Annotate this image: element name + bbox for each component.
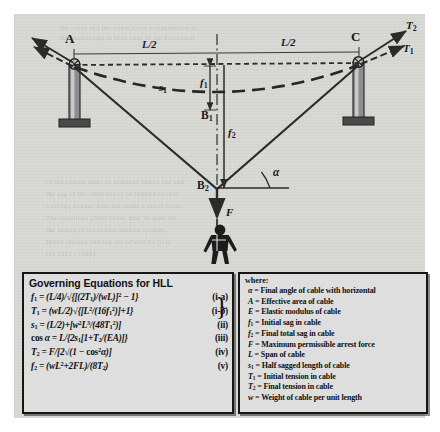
equation-number: (ii) [215, 321, 228, 330]
equation-row: T1 = (wL/2)√{[L2/(16f12)]+1} (i-b) [31, 306, 228, 317]
equation-row: T2 = F/[2√(1 − cos2α)] (iv) [31, 347, 228, 358]
label-support-A: A [65, 31, 74, 47]
angle-arc-alpha [262, 172, 271, 188]
equation-row: f1 = (L/4)/√{[(2T1)/(wL)]2 − 1} (i-a) [31, 292, 228, 303]
nomenclature-title: where: [240, 274, 426, 286]
equation-number: (iii) [213, 334, 228, 343]
equation-body-ii: s1 = (L/2)+[w2L3/(48T12)] [31, 320, 215, 331]
figure-page: the cable and the arrest force is transm… [0, 0, 440, 432]
legend-item: f2 = Final total sag in cable [248, 329, 423, 340]
equation-body-v: f2 = (wL2+2FL)/(8T2) [31, 361, 216, 372]
legend-item: L = Span of cable [248, 350, 423, 361]
legend-item: s1 = Half sagged length of cable [248, 361, 423, 372]
legend-item: f1 = Initial sag in cable [248, 318, 423, 329]
equation-body-i-a: f1 = (L/4)/√{[(2T1)/(wL)]2 − 1} [31, 292, 210, 303]
label-support-C: C [351, 29, 360, 45]
label-B1: B1 [201, 109, 213, 123]
label-T2: T2 [406, 19, 417, 33]
legend-item: T2 = Final tension in cable [248, 382, 423, 393]
label-span-right: L/2 [281, 37, 296, 48]
equation-row: f2 = (wL2+2FL)/(8T2) (v) [31, 361, 228, 372]
suspended-worker-figure [204, 219, 238, 264]
equation-number: (iv) [213, 348, 228, 357]
label-T1: T1 [403, 42, 414, 56]
label-force-F: F [226, 206, 233, 218]
legend-item: T1 = Initial tension in cable [248, 372, 423, 383]
label-f1: f1 [200, 76, 208, 90]
legend-item: E = Elastic modulus of cable [248, 307, 423, 318]
label-B2: B2 [197, 179, 209, 193]
legend-item: α = Final angle of cable with horizontal [248, 286, 423, 297]
equations-list: f1 = (L/4)/√{[(2T1)/(wL)]2 − 1} (i-a) T1… [24, 291, 232, 371]
governing-equations-box: Governing Equations for HLL } f1 = (L/4)… [22, 272, 234, 414]
legend-item: A = Effective area of cable [248, 297, 423, 308]
legend-item: w = Weight of cable per unit length [248, 393, 423, 404]
equation-row: cos α = L/{2s1[1+T2/(EA)]} (iii) [31, 334, 228, 344]
diagram-vector [14, 14, 425, 264]
hll-force-diagram: A C L/2 L/2 s1 f1 f2 B1 B2 α F T2 T1 [14, 14, 425, 264]
label-span-left: L/2 [142, 39, 157, 50]
nomenclature-list: α = Final angle of cable with horizontal… [240, 286, 426, 404]
equation-body-i-b: T1 = (wL/2)√{[L2/(16f12)]+1} [31, 306, 210, 317]
nomenclature-box: where: α = Final angle of cable with hor… [238, 272, 428, 414]
span-dimension-line [74, 52, 359, 54]
equation-body-iv: T2 = F/[2√(1 − cos2α)] [31, 347, 213, 358]
equation-row: s1 = (L/2)+[w2L3/(48T12)] (ii) [31, 320, 228, 331]
equation-body-iii: cos α = L/{2s1[1+T2/(EA)]} [31, 334, 213, 344]
support-post-left [59, 59, 90, 127]
equation-group-brace: } [216, 294, 228, 320]
equation-number: (v) [216, 362, 228, 371]
label-s1: s1 [159, 82, 167, 95]
legend-item: F = Maximum permissible arrest force [248, 340, 423, 351]
equations-box-title: Governing Equations for HLL [24, 274, 232, 291]
label-f2: f2 [228, 126, 236, 140]
support-post-right [343, 57, 374, 125]
label-angle-alpha: α [273, 166, 279, 178]
